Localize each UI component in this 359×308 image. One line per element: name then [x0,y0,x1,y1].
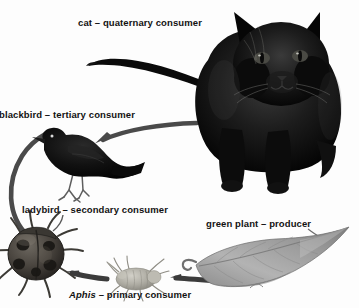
label-aphis-role: – primary consumer [96,289,191,300]
label-green-plant: green plant – producer [206,219,311,229]
illustration-layer [0,0,359,308]
label-blackbird: blackbird – tertiary consumer [0,110,135,120]
label-ladybird: ladybird – secondary consumer [22,205,168,215]
cat-head [233,12,330,106]
ladybird-illustration [0,211,83,297]
label-cat: cat – quaternary consumer [78,18,202,28]
food-chain-diagram: cat – quaternary consumer blackbird – te… [0,0,359,308]
label-aphis-genus: Aphis [69,289,96,300]
label-aphis: Aphis – primary consumer [69,290,191,300]
green-plant-illustration [183,227,349,288]
blackbird-illustration [32,128,145,202]
energy-flow-arrow-blackbird-to-cat [95,123,197,144]
